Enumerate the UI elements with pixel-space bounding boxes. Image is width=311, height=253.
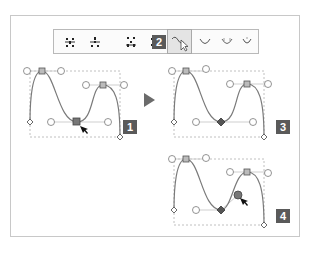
reshape-curve-cursor-icon	[169, 32, 191, 52]
curve-option-1-button[interactable]	[194, 30, 216, 53]
convert-to-corner-button[interactable]	[59, 30, 81, 53]
curve-u-small-icon	[240, 36, 254, 48]
next-step-arrow	[144, 93, 155, 107]
smooth-points-icon	[88, 35, 102, 49]
step-badge-1: 1	[123, 120, 137, 134]
reshape-tool-button[interactable]	[167, 29, 192, 54]
curve-option-2-button[interactable]	[216, 30, 238, 53]
anchor-toolbar: 2	[53, 29, 259, 54]
curve-step-4	[160, 150, 285, 235]
convert-to-smooth-button[interactable]	[84, 30, 106, 53]
show-handles-selected-button[interactable]	[120, 30, 142, 53]
step-badge-2: 2	[152, 35, 166, 49]
corner-points-icon	[63, 35, 77, 49]
curve-u-handles-icon	[220, 36, 234, 48]
curve-u-icon	[198, 36, 212, 48]
step-badge-4: 4	[276, 209, 290, 223]
step-badge-3: 3	[276, 120, 290, 134]
curve-step-3	[160, 60, 285, 145]
handles-selected-icon	[124, 35, 138, 49]
curve-option-3-button[interactable]	[236, 30, 258, 53]
